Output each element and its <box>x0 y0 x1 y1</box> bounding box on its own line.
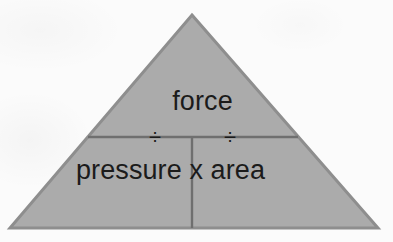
numerator-label: force <box>0 88 393 115</box>
divide-icon-right: ÷ <box>220 126 240 148</box>
triangle-graphic <box>0 0 393 242</box>
denominator-label: pressure x area <box>0 157 393 184</box>
denominator-text: pressure x area <box>76 155 265 185</box>
numerator-text: force <box>172 86 233 116</box>
divide-icon-left: ÷ <box>145 126 165 148</box>
triangle-shape <box>10 15 378 228</box>
formula-triangle-figure: force ÷ ÷ pressure x area <box>0 0 393 242</box>
